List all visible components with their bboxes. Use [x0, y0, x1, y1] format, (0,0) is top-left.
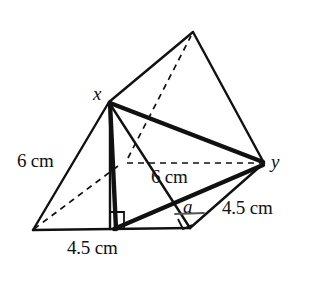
angle-label-a: a	[183, 197, 193, 216]
edge-apex-to-y	[193, 32, 264, 163]
dimension-label-left-6cm: 6 cm	[17, 151, 54, 170]
edge-y-to-bottomright	[190, 163, 264, 228]
vertex-label-x: x	[93, 84, 101, 103]
dimension-label-middle-6cm: 6 cm	[151, 167, 188, 186]
hidden-edge-back-to-apex	[128, 36, 191, 158]
vertex-label-y: y	[271, 152, 279, 171]
dimension-label-bottom-4-5cm: 4.5 cm	[67, 238, 118, 257]
geometry-figure: x y a 6 cm 6 cm 4.5 cm 4.5 cm	[0, 0, 312, 281]
bold-edge-x-to-y	[110, 103, 263, 162]
prism-drawing-canvas	[0, 0, 312, 281]
edge-bottomleft-to-bottomright	[33, 228, 190, 230]
edge-x-to-apex	[109, 32, 193, 102]
dimension-label-right-4-5cm: 4.5 cm	[222, 198, 273, 217]
